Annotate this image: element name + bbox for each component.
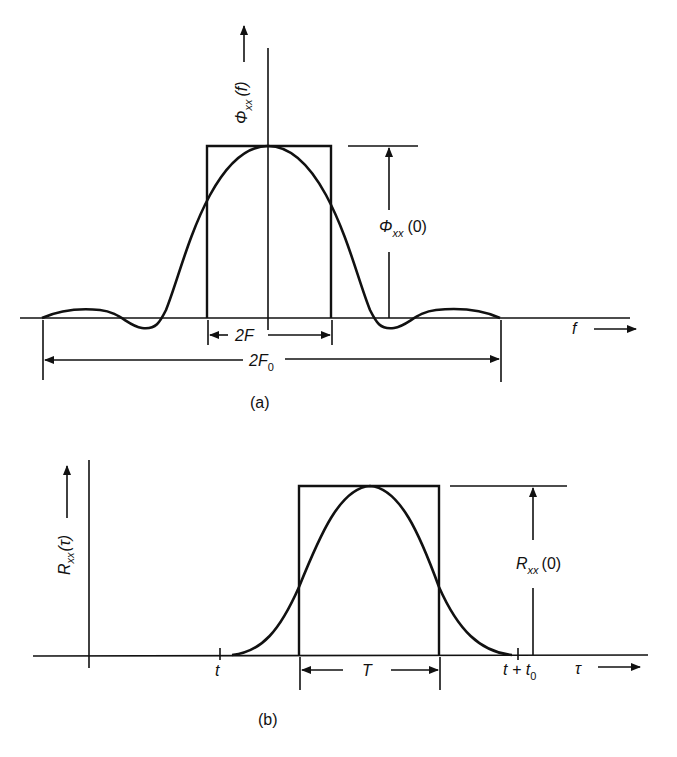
- spectrum-curve: [42, 146, 500, 328]
- caption-b: (b): [258, 711, 278, 728]
- caption-a: (a): [250, 394, 270, 411]
- svg-text:Rxx(τ): Rxx(τ): [56, 535, 76, 575]
- correlation-curve: [232, 486, 512, 655]
- figure-a: Φxx(f) Φxx(0) 2F 2F0 f (a): [20, 26, 636, 411]
- svg-text:Φxx(f): Φxx(f): [233, 82, 254, 125]
- f-axis-label: f: [572, 320, 578, 337]
- peak-label-r: Rxx(0): [516, 555, 561, 576]
- outer-width-label: 2F0: [248, 352, 274, 373]
- inner-width-label: 2F: [234, 327, 255, 344]
- end-tick-label: t + t0: [503, 661, 536, 682]
- tau-axis-label: τ: [575, 660, 582, 677]
- rectangular-correlation: [299, 486, 439, 655]
- peak-label-phi: Φxx(0): [379, 218, 427, 239]
- figure-b: Rxx(τ) t t + t0 T Rxx(0) τ (b): [33, 460, 648, 728]
- phi-axis-label: Φxx(f): [233, 82, 254, 125]
- width-label: T: [362, 662, 373, 679]
- tau-axis: [33, 655, 648, 656]
- r-axis-label: Rxx(τ): [56, 535, 76, 575]
- start-tick-label: t: [215, 662, 220, 679]
- diagram-canvas: Φxx(f) Φxx(0) 2F 2F0 f (a) Rxx(τ): [0, 0, 677, 757]
